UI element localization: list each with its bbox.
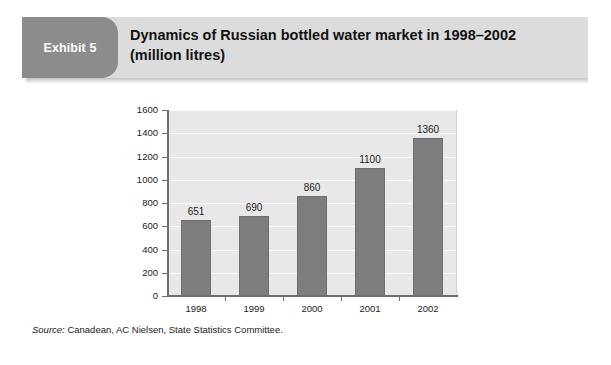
y-axis-tick xyxy=(162,133,167,134)
y-axis-tick-label-wrap: 1200 xyxy=(112,152,158,162)
bar-value-label: 1360 xyxy=(398,124,458,135)
exhibit-card: Exhibit 5 Dynamics of Russian bottled wa… xyxy=(22,8,588,346)
y-axis-tick-label-wrap: 1600 xyxy=(112,105,158,115)
bar-value-label: 860 xyxy=(282,182,342,193)
y-axis-tick-label-wrap: 0 xyxy=(112,291,158,301)
exhibit-title-line-1: Dynamics of Russian bottled water market… xyxy=(130,25,570,45)
bar-chart: 0200400600800100012001400160065119986901… xyxy=(22,84,588,322)
y-axis-tick xyxy=(162,157,167,158)
x-axis-tick-label: 1999 xyxy=(224,303,284,314)
bar xyxy=(355,168,385,296)
y-axis-tick-label-wrap: 800 xyxy=(112,198,158,208)
y-axis-tick xyxy=(162,250,167,251)
y-axis-tick-label: 1400 xyxy=(114,128,158,138)
x-axis-tick-label: 2001 xyxy=(340,303,400,314)
y-axis-tick-label-wrap: 400 xyxy=(112,245,158,255)
x-axis-tick xyxy=(341,296,342,301)
exhibit-title-line-2: (million litres) xyxy=(130,45,570,65)
y-axis-tick-label: 400 xyxy=(114,245,158,255)
y-axis-line xyxy=(167,110,169,296)
x-axis-tick xyxy=(399,296,400,301)
y-axis-tick-label-wrap: 600 xyxy=(112,221,158,231)
y-axis-tick xyxy=(162,226,167,227)
x-axis-tick xyxy=(283,296,284,301)
bar xyxy=(181,220,211,296)
bar xyxy=(413,138,443,296)
source-note: Source: Canadean, AC Nielsen, State Stat… xyxy=(32,324,283,335)
exhibit-badge: Exhibit 5 xyxy=(22,17,118,78)
y-axis-tick-label-wrap: 1400 xyxy=(112,128,158,138)
y-axis-tick-label-wrap: 200 xyxy=(112,268,158,278)
bar xyxy=(297,196,327,296)
exhibit-badge-label: Exhibit 5 xyxy=(44,41,97,55)
y-axis-tick-label: 1200 xyxy=(114,152,158,162)
y-axis-tick xyxy=(162,180,167,181)
exhibit-title: Dynamics of Russian bottled water market… xyxy=(130,25,570,65)
x-axis-tick-label: 1998 xyxy=(166,303,226,314)
y-axis-tick xyxy=(162,296,167,297)
y-axis-tick-label: 200 xyxy=(114,268,158,278)
bar-value-label: 1100 xyxy=(340,154,400,165)
y-axis-tick-label: 1600 xyxy=(114,105,158,115)
y-axis-tick xyxy=(162,203,167,204)
x-axis-tick-label: 2002 xyxy=(398,303,458,314)
y-axis-tick-label-wrap: 1000 xyxy=(112,175,158,185)
x-axis-tick-label: 2000 xyxy=(282,303,342,314)
bar xyxy=(239,216,269,296)
y-axis-tick xyxy=(162,273,167,274)
bar-value-label: 651 xyxy=(166,206,226,217)
y-axis-tick-label: 1000 xyxy=(114,175,158,185)
source-label: Source: xyxy=(32,324,65,335)
gridline xyxy=(168,110,456,111)
x-axis-tick xyxy=(225,296,226,301)
bar-value-label: 690 xyxy=(224,202,284,213)
y-axis-tick-label: 600 xyxy=(114,221,158,231)
y-axis-tick xyxy=(162,110,167,111)
y-axis-tick-label: 0 xyxy=(114,291,158,301)
source-text: Canadean, AC Nielsen, State Statistics C… xyxy=(65,324,283,335)
y-axis-tick-label: 800 xyxy=(114,198,158,208)
